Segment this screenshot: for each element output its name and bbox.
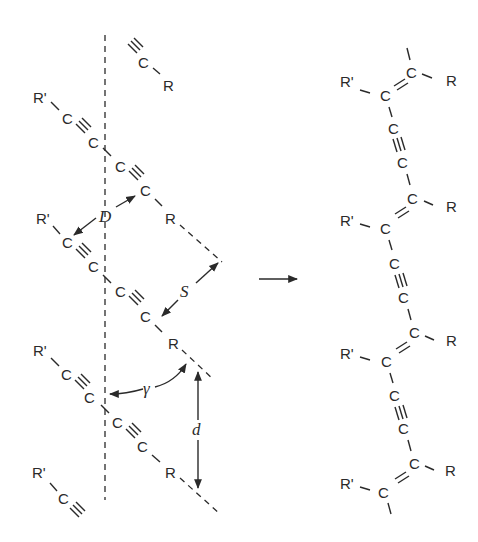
- atom-r: R: [165, 210, 176, 227]
- atom-c: C: [115, 283, 126, 300]
- label-d-lowercase: d: [192, 420, 201, 439]
- atom-c: C: [137, 438, 148, 455]
- bottom-stub: [388, 503, 391, 514]
- atom-c: C: [381, 353, 392, 370]
- atom-c: C: [406, 64, 417, 81]
- atom-c: C: [380, 87, 391, 104]
- atom-c: C: [389, 255, 400, 272]
- atom-c: C: [84, 389, 95, 406]
- atom-r-prime: R': [33, 89, 47, 106]
- polymer-yne-unit: C C: [389, 373, 411, 451]
- atom-c: C: [115, 158, 126, 175]
- atom-c: C: [88, 134, 99, 151]
- atom-r: R: [446, 198, 457, 215]
- label-d-uppercase: D: [98, 207, 112, 226]
- atom-c: C: [397, 154, 408, 171]
- atom-c: C: [62, 110, 73, 127]
- monomer-bottom-partial: R' C: [32, 464, 85, 517]
- atom-c: C: [409, 324, 420, 341]
- atom-r-prime: R': [340, 73, 354, 90]
- atom-c: C: [58, 490, 69, 507]
- atom-r: R: [446, 72, 457, 89]
- polymer-chain: C R R' C C C C R R' C: [340, 48, 457, 514]
- polymer-ene-unit: C R R' C: [340, 190, 457, 237]
- atom-r: R: [163, 77, 174, 94]
- polymer-ene-unit: C R R' C: [340, 64, 457, 104]
- atom-c: C: [140, 308, 151, 325]
- atom-r: R: [446, 332, 457, 349]
- atom-c: C: [62, 234, 73, 251]
- parameter-s-spacing: S: [162, 263, 218, 316]
- atom-c: C: [398, 289, 409, 306]
- atom-c: C: [140, 182, 151, 199]
- polymer-yne-unit: C C: [389, 240, 411, 320]
- atom-r-prime: R': [32, 464, 46, 481]
- polymer-ene-unit: C R R' C: [340, 324, 457, 370]
- label-s: S: [180, 282, 189, 301]
- atom-c: C: [398, 420, 409, 437]
- atom-c: C: [407, 190, 418, 207]
- atom-r: R: [445, 462, 456, 479]
- atom-c: C: [88, 258, 99, 275]
- atom-r: R: [168, 335, 179, 352]
- parameter-gamma-angle: γ: [110, 364, 186, 398]
- atom-r-prime: R': [33, 342, 47, 359]
- polymer-ene-unit: C R R' C: [340, 455, 456, 514]
- monomer-stack: C R R' C C C C R R' C: [32, 35, 222, 517]
- atom-c: C: [389, 387, 400, 404]
- atom-c: C: [112, 414, 123, 431]
- packing-line: [180, 478, 220, 514]
- atom-c: C: [380, 220, 391, 237]
- packing-line: [180, 225, 222, 262]
- atom-r: R: [165, 464, 176, 481]
- atom-r-prime: R': [36, 210, 50, 227]
- polymer-yne-unit: C C: [388, 107, 410, 185]
- atom-c: C: [409, 455, 420, 472]
- atom-r-prime: R': [340, 475, 354, 492]
- atom-c: C: [61, 366, 72, 383]
- atom-c: C: [378, 484, 389, 501]
- monomer-top-partial: C R: [128, 38, 174, 94]
- atom-r-prime: R': [340, 345, 354, 362]
- label-gamma: γ: [143, 379, 151, 398]
- atom-c: C: [388, 120, 399, 137]
- parameter-d-lowercase: d: [192, 372, 201, 488]
- atom-c: C: [138, 54, 149, 71]
- diagram-canvas: C R R' C C C C R R' C: [0, 0, 478, 542]
- atom-r-prime: R': [340, 212, 354, 229]
